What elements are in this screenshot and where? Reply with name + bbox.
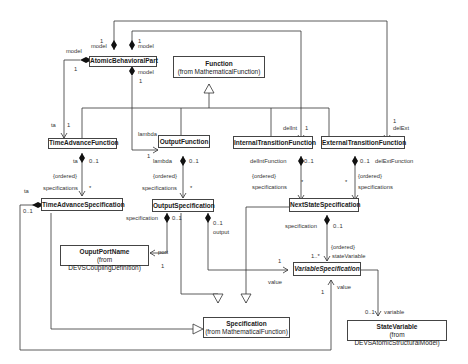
- multiplicity-label: 0..1: [360, 158, 370, 165]
- class-package: (from MathematicalFunction): [204, 328, 289, 336]
- role-label: delIntFunction: [250, 158, 286, 165]
- class-name: OutputSpecification: [153, 202, 213, 210]
- multiplicity-label: 1: [74, 66, 77, 73]
- class-name: OutputFunction: [159, 138, 209, 146]
- multiplicity-label: 1: [147, 153, 150, 160]
- class-function[interactable]: Function (from MathematicalFunction): [173, 56, 265, 78]
- multiplicity-label: *: [89, 185, 91, 192]
- multiplicity-label: 1: [305, 125, 308, 132]
- role-label: ta: [73, 158, 78, 165]
- class-package: (from MathematicalFunction): [174, 68, 264, 76]
- multiplicity-label: 0..1: [189, 158, 199, 165]
- role-label: delExtFunction: [375, 158, 413, 165]
- class-name: InternalTransitionFunction: [234, 139, 312, 147]
- class-atomic-behavioral-part[interactable]: AtomicBehavioralPart: [89, 56, 157, 67]
- constraint-label: {ordered}: [153, 173, 177, 180]
- class-output-specification[interactable]: OutputSpecification: [152, 199, 214, 212]
- multiplicity-label: *: [190, 185, 192, 192]
- role-label: port: [158, 249, 168, 256]
- multiplicity-label: 0..1: [23, 208, 33, 215]
- class-specification[interactable]: Specification (from MathematicalFunction…: [203, 317, 290, 338]
- role-label: lambda: [153, 158, 172, 165]
- constraint-label: {ordered}: [53, 173, 77, 180]
- class-state-variable[interactable]: StateVariable (from DEVSAtomicStructural…: [347, 320, 447, 341]
- multiplicity-label: 1: [161, 263, 164, 270]
- class-name: VariableSpecification: [294, 265, 360, 273]
- multiplicity-label: 1: [321, 289, 324, 296]
- multiplicity-label: *: [345, 179, 347, 186]
- role-label: specification: [126, 215, 158, 222]
- multiplicity-label: 1: [278, 258, 281, 265]
- role-label: value: [337, 284, 351, 291]
- role-label: model: [66, 48, 82, 55]
- class-name: Function: [174, 60, 264, 68]
- role-label: lambda: [138, 131, 157, 138]
- multiplicity-label: 0..1: [172, 215, 182, 222]
- class-next-state-specification[interactable]: NextStateSpecification: [289, 198, 359, 212]
- multiplicity-label: 1: [393, 118, 396, 125]
- class-internal-transition-function[interactable]: InternalTransitionFunction: [233, 136, 313, 149]
- multiplicity-label: 1: [139, 78, 142, 85]
- multiplicity-label: 0..1: [304, 158, 314, 165]
- role-label: model: [91, 43, 107, 50]
- class-variable-specification[interactable]: VariableSpecification: [293, 262, 361, 276]
- class-name: TimeAdvanceFunction: [49, 139, 116, 147]
- multiplicity-label: 1..*: [311, 253, 320, 260]
- multiplicity-label: 0..1: [365, 309, 375, 316]
- class-package: (from DEVSAtomicStructuralModel): [348, 331, 446, 347]
- role-label: specifications: [142, 185, 177, 192]
- multiplicity-label: 0..1: [213, 220, 223, 227]
- role-label: delInt: [283, 125, 297, 132]
- multiplicity-label: 0..1: [333, 223, 343, 230]
- role-label: output: [213, 229, 229, 236]
- multiplicity-label: 0..1: [89, 158, 99, 165]
- role-label: value: [268, 279, 282, 286]
- role-label: specifications: [252, 184, 287, 191]
- constraint-label: {ordered}: [252, 173, 276, 180]
- class-name: TimeAdvanceSpecification: [42, 201, 122, 209]
- class-time-advance-function[interactable]: TimeAdvanceFunction: [48, 138, 117, 149]
- constraint-label: {ordered}: [331, 244, 355, 251]
- role-label: model: [138, 69, 154, 76]
- role-label: stateVariable: [332, 253, 365, 260]
- class-output-function[interactable]: OutputFunction: [158, 135, 210, 148]
- class-name: ExternalTransitionFunction: [322, 139, 404, 147]
- class-ouput-port-name[interactable]: OuputPortName (from DEVSCouplingDefiniti…: [60, 245, 149, 266]
- role-label: ta: [24, 188, 29, 195]
- role-label: specifications: [43, 185, 78, 192]
- multiplicity-label: *: [301, 179, 303, 186]
- role-label: variable: [384, 309, 404, 316]
- class-external-transition-function[interactable]: ExternalTransitionFunction: [321, 136, 405, 149]
- role-label: specification: [285, 223, 317, 230]
- class-package: (from DEVSCouplingDefinition): [61, 256, 148, 272]
- class-name: StateVariable: [348, 323, 446, 331]
- role-label: specifications: [358, 184, 393, 191]
- class-time-advance-specification[interactable]: TimeAdvanceSpecification: [41, 198, 123, 211]
- class-name: Specification: [204, 320, 289, 328]
- role-label: model: [138, 43, 154, 50]
- constraint-label: {ordered}: [358, 173, 382, 180]
- class-name: AtomicBehavioralPart: [90, 57, 156, 65]
- role-label: ta: [51, 122, 56, 129]
- class-name: NextStateSpecification: [290, 201, 358, 209]
- role-label: delExt: [393, 125, 409, 132]
- multiplicity-label: 1: [67, 122, 70, 129]
- class-name: OuputPortName: [61, 248, 148, 256]
